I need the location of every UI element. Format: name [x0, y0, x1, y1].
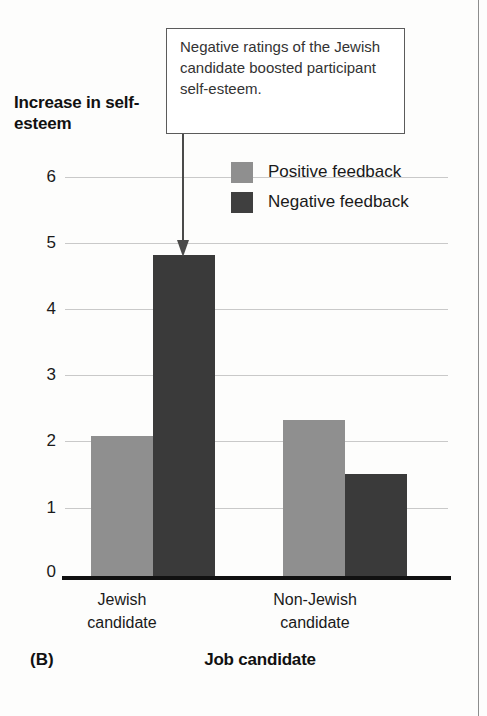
legend-item-positive: Positive feedback: [231, 157, 409, 187]
x-tick-nonjewish-line2: candidate: [235, 611, 395, 634]
y-tick-label-5: 5: [30, 233, 56, 253]
bar-jewish-negative: [153, 255, 215, 576]
legend: Positive feedback Negative feedback: [231, 157, 409, 217]
bar-nonjewish-positive: [283, 420, 345, 576]
y-tick-label-1: 1: [30, 498, 56, 518]
x-tick-jewish-line1: Jewish: [42, 588, 202, 611]
x-axis-title: Job candidate: [120, 650, 400, 670]
annotation-callout: Negative ratings of the Jewish candidate…: [166, 28, 405, 134]
x-tick-nonjewish-line1: Non-Jewish: [235, 588, 395, 611]
legend-swatch-negative-icon: [231, 192, 253, 213]
y-tick-label-6: 6: [30, 167, 56, 187]
x-tick-jewish: Jewish candidate: [42, 588, 202, 634]
x-axis-line: [62, 576, 451, 580]
legend-item-negative: Negative feedback: [231, 187, 409, 217]
y-tick-label-4: 4: [30, 299, 56, 319]
y-tick-label-2: 2: [30, 431, 56, 451]
legend-swatch-positive-icon: [231, 162, 253, 183]
annotation-arrow-icon: [176, 134, 190, 258]
legend-label-negative: Negative feedback: [268, 192, 409, 212]
gridline-5: [65, 243, 448, 244]
y-tick-label-3: 3: [30, 365, 56, 385]
figure-panel-b: Increase in self-esteem 6 5 4 3 2 1 0 Po…: [0, 0, 487, 716]
gridline-4: [65, 309, 448, 310]
bar-jewish-positive: [91, 436, 153, 576]
x-tick-nonjewish: Non-Jewish candidate: [235, 588, 395, 634]
legend-label-positive: Positive feedback: [268, 162, 401, 182]
x-tick-jewish-line2: candidate: [42, 611, 202, 634]
gridline-3: [65, 375, 448, 376]
panel-label: (B): [30, 650, 54, 670]
bar-nonjewish-negative: [345, 474, 407, 576]
y-tick-label-0: 0: [30, 562, 56, 582]
